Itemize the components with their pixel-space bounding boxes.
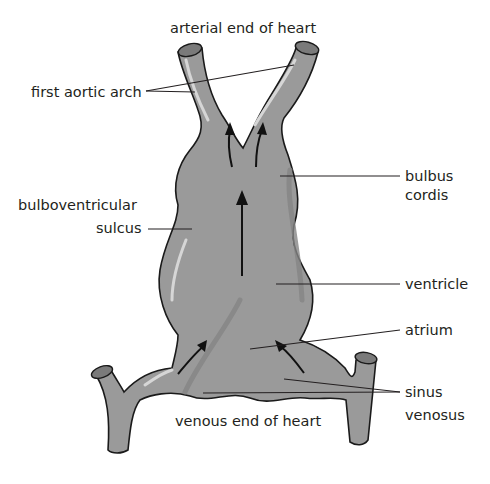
label-sinus-line2: venosus	[405, 407, 465, 423]
label-atrium: atrium	[405, 322, 453, 338]
heart-tube-diagram: arterial end of heart first aortic arch …	[0, 0, 490, 484]
label-sinus-line1: sinus	[405, 384, 443, 400]
label-bulboventricular-line2: sulcus	[96, 220, 142, 236]
label-first-aortic-arch: first aortic arch	[31, 84, 142, 100]
heart-tube-body	[90, 39, 378, 453]
label-arterial-end: arterial end of heart	[170, 20, 316, 36]
label-bulbus-line1: bulbus	[405, 168, 453, 184]
label-bulboventricular-line1: bulboventricular	[18, 197, 137, 213]
label-bulbus-line2: cordis	[405, 187, 448, 203]
label-venous-end: venous end of heart	[175, 413, 321, 429]
label-ventricle: ventricle	[405, 276, 468, 292]
